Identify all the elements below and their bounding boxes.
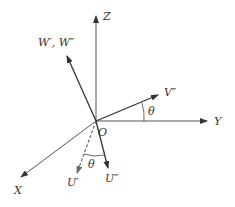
z-axis-label: Z	[102, 10, 111, 23]
u-prime-label: U′	[67, 176, 79, 189]
coordinate-diagram: Z Y X W′, W″ V″ U″ U′ O θ θ	[0, 0, 235, 207]
y-axis-label: Y	[214, 115, 223, 128]
v-double-prime-label: V″	[164, 86, 177, 99]
theta-label-lower: θ	[88, 158, 95, 171]
theta-label-upper: θ	[148, 105, 155, 118]
w-vector	[67, 56, 96, 121]
x-axis	[21, 121, 96, 177]
u-double-prime-label: U″	[105, 172, 119, 185]
theta-arc-upper	[142, 103, 144, 121]
w-vector-label: W′, W″	[38, 36, 75, 49]
theta-arc-lower	[84, 154, 104, 156]
x-axis-label: X	[13, 184, 23, 197]
origin-label: O	[98, 126, 107, 139]
